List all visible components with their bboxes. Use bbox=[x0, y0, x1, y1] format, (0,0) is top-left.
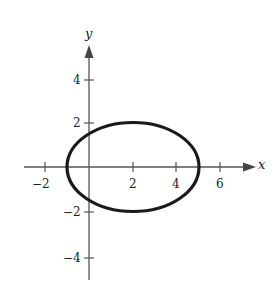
x-tick-label: −2 bbox=[32, 178, 50, 190]
x-tick-label: 4 bbox=[172, 178, 180, 190]
y-tick-label: 2 bbox=[73, 117, 81, 129]
y-axis-label: y bbox=[85, 28, 92, 40]
x-axis-label: x bbox=[258, 159, 265, 171]
x-tick-label: 2 bbox=[129, 178, 137, 190]
y-tick-label: 4 bbox=[73, 74, 81, 86]
x-tick-label: 6 bbox=[216, 178, 224, 190]
y-tick-label: −4 bbox=[63, 252, 81, 264]
y-tick-label: −2 bbox=[63, 206, 81, 218]
x-axis-arrow-icon bbox=[243, 163, 256, 172]
chart-canvas bbox=[0, 0, 278, 292]
y-axis-arrow-icon bbox=[85, 45, 94, 58]
